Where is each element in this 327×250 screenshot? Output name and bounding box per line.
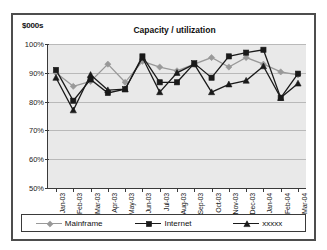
x-axis-tick-mark bbox=[177, 188, 178, 192]
x-axis-tick-label: May-03 bbox=[128, 193, 135, 215]
legend-swatch-triangle-icon bbox=[233, 219, 259, 228]
y-axis-tick-label: 70% bbox=[29, 126, 44, 135]
x-axis-tick-mark bbox=[73, 188, 74, 192]
legend-swatch-square-icon bbox=[135, 219, 161, 228]
y-axis-tick-label: 80% bbox=[29, 97, 44, 106]
data-point-marker bbox=[53, 74, 59, 80]
chart-screenshot: $000s Capacity / utilization 100%90%80%7… bbox=[0, 0, 327, 250]
data-point-marker bbox=[157, 64, 163, 70]
legend-item-mainframe[interactable]: Mainframe bbox=[22, 219, 116, 228]
data-point-marker bbox=[209, 75, 214, 80]
y-axis-tick-label: 100% bbox=[25, 40, 44, 49]
y-axis-tick-label: 90% bbox=[29, 68, 44, 77]
legend-label: Mainframe bbox=[65, 219, 103, 228]
data-point-marker bbox=[71, 98, 76, 103]
data-point-marker bbox=[244, 50, 249, 55]
x-axis-tick-mark bbox=[160, 188, 161, 192]
chart-frame: $000s Capacity / utilization 100%90%80%7… bbox=[11, 13, 316, 241]
data-point-marker bbox=[174, 80, 179, 85]
data-point-marker bbox=[226, 64, 232, 70]
x-axis-tick-label: Feb-03 bbox=[76, 193, 83, 214]
data-point-marker bbox=[208, 54, 214, 60]
data-point-marker bbox=[70, 107, 76, 113]
x-axis-tick-mark bbox=[281, 188, 282, 192]
x-axis-tick-mark bbox=[56, 188, 57, 192]
x-axis-tick-label: Jan-03 bbox=[59, 193, 66, 213]
x-axis-tick-mark bbox=[142, 188, 143, 192]
x-axis-tick-label: Dec-03 bbox=[249, 193, 256, 214]
x-axis-tick-label: Feb-04 bbox=[284, 193, 291, 214]
data-point-marker bbox=[244, 220, 250, 226]
data-point-marker bbox=[53, 67, 58, 72]
chart-title: Capacity / utilization bbox=[13, 25, 314, 35]
x-axis-tick-label: Jun-03 bbox=[145, 193, 152, 213]
y-axis-tick-label: 60% bbox=[29, 155, 44, 164]
x-axis-tick-mark bbox=[91, 188, 92, 192]
x-axis-tick-label: Sep-03 bbox=[197, 193, 204, 214]
x-axis-tick-label: Jul-03 bbox=[163, 193, 170, 211]
x-axis-tick-mark bbox=[263, 188, 264, 192]
data-point-marker bbox=[157, 80, 162, 85]
y-axis-tick-mark bbox=[45, 188, 49, 189]
x-axis-tick-mark bbox=[246, 188, 247, 192]
x-axis-tick-label: Oct-03 bbox=[215, 193, 222, 213]
x-axis-tick-label: Apr-03 bbox=[111, 193, 118, 213]
x-axis-tick-mark bbox=[108, 188, 109, 192]
x-axis-tick-label: Jan-04 bbox=[266, 193, 273, 213]
data-point-marker bbox=[278, 69, 284, 75]
x-axis-tick-label: Aug-03 bbox=[180, 193, 187, 214]
data-point-marker bbox=[226, 54, 231, 59]
x-axis-tick-mark bbox=[229, 188, 230, 192]
data-point-marker bbox=[261, 47, 266, 52]
x-axis-tick-mark bbox=[212, 188, 213, 192]
plot-area: 100%90%80%70%60%50% Jan-03Feb-03Mar-03Ap… bbox=[47, 44, 306, 189]
series-lines bbox=[48, 44, 306, 188]
data-point-marker bbox=[295, 80, 301, 86]
data-point-marker bbox=[147, 221, 152, 226]
legend-item-xxxxx[interactable]: xxxxx bbox=[211, 219, 305, 228]
chart-legend: MainframeInternetxxxxx bbox=[21, 214, 306, 232]
legend-label: xxxxx bbox=[262, 219, 282, 228]
x-axis-tick-label: Mar-04 bbox=[301, 193, 308, 214]
x-axis-tick-label: Mar-03 bbox=[94, 193, 101, 214]
legend-label: Internet bbox=[164, 219, 191, 228]
x-axis-tick-mark bbox=[125, 188, 126, 192]
legend-item-internet[interactable]: Internet bbox=[116, 219, 210, 228]
x-axis-tick-mark bbox=[298, 188, 299, 192]
data-point-marker bbox=[87, 72, 93, 78]
y-axis-tick-label: 50% bbox=[29, 184, 44, 193]
data-point-marker bbox=[47, 220, 53, 226]
data-point-marker bbox=[295, 71, 300, 76]
x-axis-tick-label: Nov-03 bbox=[232, 193, 239, 214]
legend-swatch-diamond-icon bbox=[36, 219, 62, 228]
x-axis-tick-mark bbox=[194, 188, 195, 192]
